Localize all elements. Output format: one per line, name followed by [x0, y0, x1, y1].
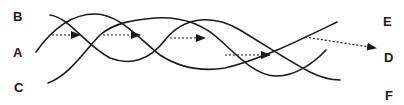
label-c: C — [14, 80, 23, 95]
label-d: D — [384, 50, 393, 65]
curve-c — [48, 18, 326, 83]
label-a: A — [13, 45, 22, 60]
diagram-canvas — [0, 0, 404, 105]
label-f: F — [385, 88, 393, 103]
dotted-arrow-5 — [305, 37, 376, 48]
curve-b — [50, 15, 340, 80]
label-b: B — [13, 9, 22, 24]
label-e: E — [383, 14, 392, 29]
